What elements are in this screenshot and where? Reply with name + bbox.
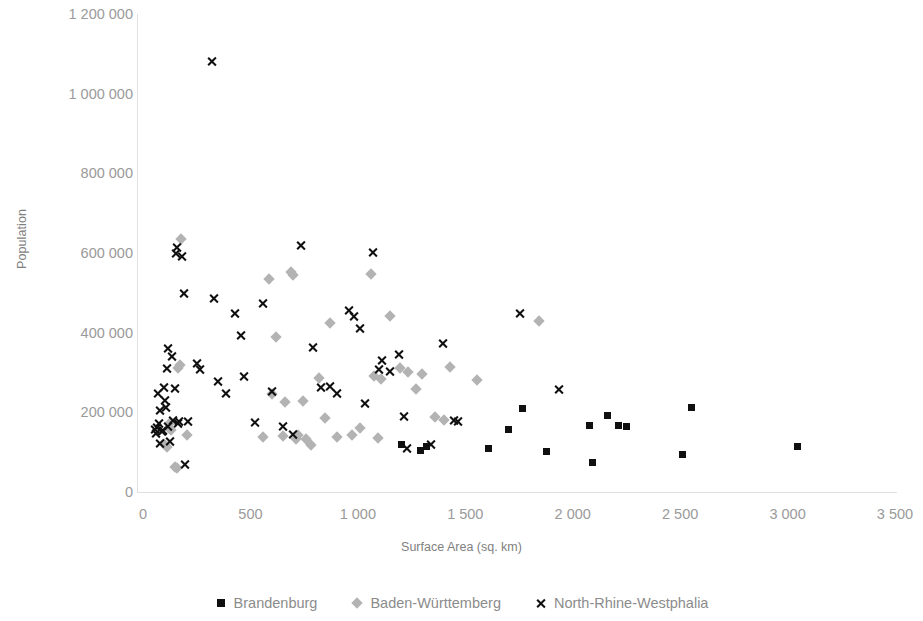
data-point-diamond — [314, 372, 325, 383]
data-point-cross — [150, 428, 161, 439]
data-point-diamond — [376, 374, 387, 385]
scatter-chart: Population 0200 000400 000600 000800 000… — [0, 0, 923, 621]
data-point-cross — [324, 381, 335, 392]
data-point-diamond — [292, 429, 303, 440]
y-axis-line — [137, 14, 138, 492]
data-point-square — [615, 422, 622, 429]
data-point-cross — [179, 459, 190, 470]
x-tick-label: 500 — [205, 507, 295, 522]
data-point-diamond — [471, 374, 482, 385]
data-point-square — [586, 422, 593, 429]
data-point-cross — [171, 248, 182, 259]
data-point-cross — [178, 288, 189, 299]
data-point-diamond — [347, 430, 358, 441]
data-point-cross — [149, 424, 160, 435]
data-point-diamond — [170, 461, 181, 472]
data-point-cross — [515, 308, 526, 319]
data-point-cross — [266, 386, 277, 397]
data-point-diamond — [163, 423, 174, 434]
data-point-cross — [367, 247, 378, 258]
data-point-cross — [155, 405, 166, 416]
data-point-cross — [355, 323, 366, 334]
data-point-cross — [153, 388, 164, 399]
data-point-cross — [169, 383, 180, 394]
data-point-cross — [374, 364, 385, 375]
data-point-cross — [162, 363, 173, 374]
data-point-cross — [249, 417, 260, 428]
data-point-diamond — [286, 266, 297, 277]
legend-label: Baden-Württemberg — [370, 595, 501, 611]
data-point-diamond — [297, 396, 308, 407]
data-point-diamond — [373, 433, 384, 444]
legend-item-2[interactable]: North-Rhine-Westphalia — [535, 595, 708, 611]
data-point-cross — [258, 298, 269, 309]
data-point-diamond — [161, 442, 172, 453]
data-point-diamond — [301, 434, 312, 445]
data-point-cross — [183, 416, 194, 427]
data-point-cross — [332, 388, 343, 399]
legend-item-0[interactable]: Brandenburg — [215, 595, 318, 611]
data-point-cross — [449, 415, 460, 426]
data-point-cross — [208, 293, 219, 304]
data-point-diamond — [365, 268, 376, 279]
data-point-diamond — [277, 431, 288, 442]
data-point-square — [485, 445, 492, 452]
data-point-cross — [393, 349, 404, 360]
data-point-diamond — [384, 310, 395, 321]
data-point-cross — [206, 56, 217, 67]
x-tick-label: 1 000 — [313, 507, 403, 522]
x-tick-label: 3 500 — [850, 507, 923, 522]
data-point-diamond — [290, 433, 301, 444]
data-point-square — [688, 404, 695, 411]
data-point-cross — [238, 371, 249, 382]
x-tick-label: 1 500 — [420, 507, 510, 522]
plot-area — [0, 0, 923, 621]
x-axis-line — [137, 492, 897, 493]
data-point-cross — [154, 418, 165, 429]
data-point-square — [519, 405, 526, 412]
data-point-diamond — [174, 360, 185, 371]
data-point-cross — [194, 364, 205, 375]
data-point-diamond — [319, 413, 330, 424]
data-point-square — [543, 448, 550, 455]
x-tick-label: 3 000 — [743, 507, 833, 522]
data-point-diamond — [430, 411, 441, 422]
data-point-diamond — [173, 362, 184, 373]
data-point-cross — [163, 421, 174, 432]
data-point-cross — [344, 305, 355, 316]
data-point-cross — [161, 402, 172, 413]
data-point-diamond — [417, 368, 428, 379]
data-point-diamond — [172, 462, 183, 473]
x-axis-title: Surface Area (sq. km) — [0, 540, 923, 554]
data-point-square — [589, 459, 596, 466]
data-point-diamond — [271, 331, 282, 342]
data-point-cross — [553, 384, 564, 395]
data-point-cross — [349, 311, 360, 322]
data-point-cross — [164, 436, 175, 447]
data-point-cross — [177, 251, 188, 262]
data-point-cross — [174, 416, 185, 427]
data-point-square — [505, 426, 512, 433]
data-point-cross — [425, 439, 436, 450]
data-point-cross — [307, 342, 318, 353]
data-point-cross — [277, 421, 288, 432]
data-point-cross — [385, 366, 396, 377]
data-point-cross — [172, 242, 183, 253]
data-point-cross — [235, 330, 246, 341]
data-point-cross — [173, 418, 184, 429]
legend-item-1[interactable]: Baden-Württemberg — [351, 595, 501, 611]
data-point-cross — [295, 240, 306, 251]
x-tick-label: 2 500 — [635, 507, 725, 522]
cross-marker — [535, 597, 547, 609]
data-point-diamond — [266, 388, 277, 399]
x-tick-label: 2 000 — [528, 507, 618, 522]
data-point-diamond — [279, 397, 290, 408]
data-point-square — [623, 423, 630, 430]
data-point-cross — [159, 382, 170, 393]
data-point-cross — [230, 308, 241, 319]
data-point-diamond — [438, 414, 449, 425]
data-point-cross — [162, 343, 173, 354]
data-point-square — [417, 447, 424, 454]
data-point-cross — [452, 416, 463, 427]
data-point-cross — [316, 382, 327, 393]
